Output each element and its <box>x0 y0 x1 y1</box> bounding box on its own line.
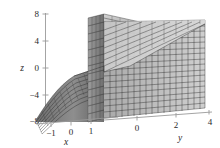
x-tick-label-1: 1 <box>89 126 94 136</box>
figure-container: 8 4 0 −4 −8 z <box>0 0 220 148</box>
z-axis-title: z <box>19 63 24 73</box>
z-tick-label-neg4: −4 <box>29 90 39 100</box>
z-tick-label-8: 8 <box>35 9 40 19</box>
surface-plot-svg: 8 4 0 −4 −8 z <box>0 0 220 148</box>
z-tick-label-0: 0 <box>35 63 40 73</box>
y-tick-label-4: 4 <box>208 117 213 127</box>
y-tick-label-2: 2 <box>174 120 179 130</box>
y-axis-title: y <box>177 133 183 143</box>
z-tick-label-4: 4 <box>35 36 40 46</box>
surface-mesh-group <box>36 14 205 134</box>
x-tick-label-0: 0 <box>69 127 74 137</box>
x-tick-label-neg1: −1 <box>46 128 56 138</box>
x-axis-title: x <box>63 137 69 147</box>
y-tick-label-0: 0 <box>135 123 140 133</box>
